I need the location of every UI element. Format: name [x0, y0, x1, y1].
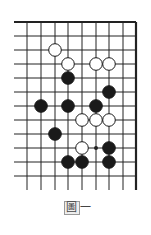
caption-char: 圖: [64, 201, 80, 215]
black-stone: [62, 156, 75, 169]
caption-suffix: 一: [80, 201, 92, 214]
black-stone: [49, 128, 62, 141]
white-stone: [76, 142, 89, 155]
black-stone: [103, 86, 116, 99]
point-marker: [94, 146, 98, 150]
black-stone: [76, 156, 89, 169]
black-stone: [35, 100, 48, 113]
white-stone: [90, 58, 103, 71]
black-stone: [90, 100, 103, 113]
black-stone: [103, 142, 116, 155]
black-stone: [62, 72, 75, 85]
diagram-caption: 圖一: [64, 198, 92, 215]
white-stone: [103, 58, 116, 71]
white-stone: [90, 114, 103, 127]
white-stone: [62, 58, 75, 71]
white-stone: [76, 114, 89, 127]
black-stone: [103, 156, 116, 169]
white-stone: [103, 114, 116, 127]
black-stone: [62, 100, 75, 113]
go-board-diagram: [0, 0, 151, 195]
white-stone: [49, 44, 62, 57]
